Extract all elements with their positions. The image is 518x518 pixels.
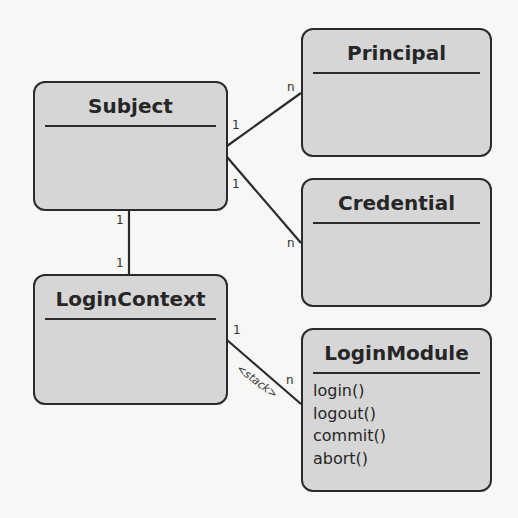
subject-credential-link	[227, 157, 301, 243]
class-name: Principal	[303, 40, 490, 66]
multiplicity-subject-credential-n: n	[287, 236, 295, 250]
multiplicity-subject-logincontext-top: 1	[116, 213, 124, 227]
multiplicity-subject-logincontext-bottom: 1	[116, 256, 124, 270]
multiplicity-subject-principal-n: n	[287, 80, 295, 94]
multiplicity-subject-principal-1: 1	[232, 118, 240, 132]
class-credential[interactable]: Credential	[301, 178, 492, 307]
divider	[313, 222, 480, 224]
method-login: login()	[313, 380, 386, 403]
divider	[313, 372, 480, 374]
class-name: Credential	[303, 190, 490, 216]
multiplicity-subject-credential-1: 1	[232, 177, 240, 191]
class-name: LoginModule	[303, 340, 490, 366]
class-principal[interactable]: Principal	[301, 28, 492, 157]
class-name: Subject	[35, 93, 226, 119]
divider	[45, 318, 216, 320]
divider	[313, 72, 480, 74]
multiplicity-logincontext-loginmodule-1: 1	[233, 323, 241, 337]
class-loginmodule[interactable]: LoginModule login() logout() commit() ab…	[301, 328, 492, 492]
class-subject[interactable]: Subject	[33, 81, 228, 211]
class-logincontext[interactable]: LoginContext	[33, 274, 228, 405]
method-list: login() logout() commit() abort()	[313, 380, 386, 470]
class-name: LoginContext	[35, 286, 226, 312]
method-commit: commit()	[313, 425, 386, 448]
multiplicity-logincontext-loginmodule-n: n	[286, 373, 294, 387]
method-abort: abort()	[313, 448, 386, 471]
divider	[45, 125, 216, 127]
method-logout: logout()	[313, 403, 386, 426]
